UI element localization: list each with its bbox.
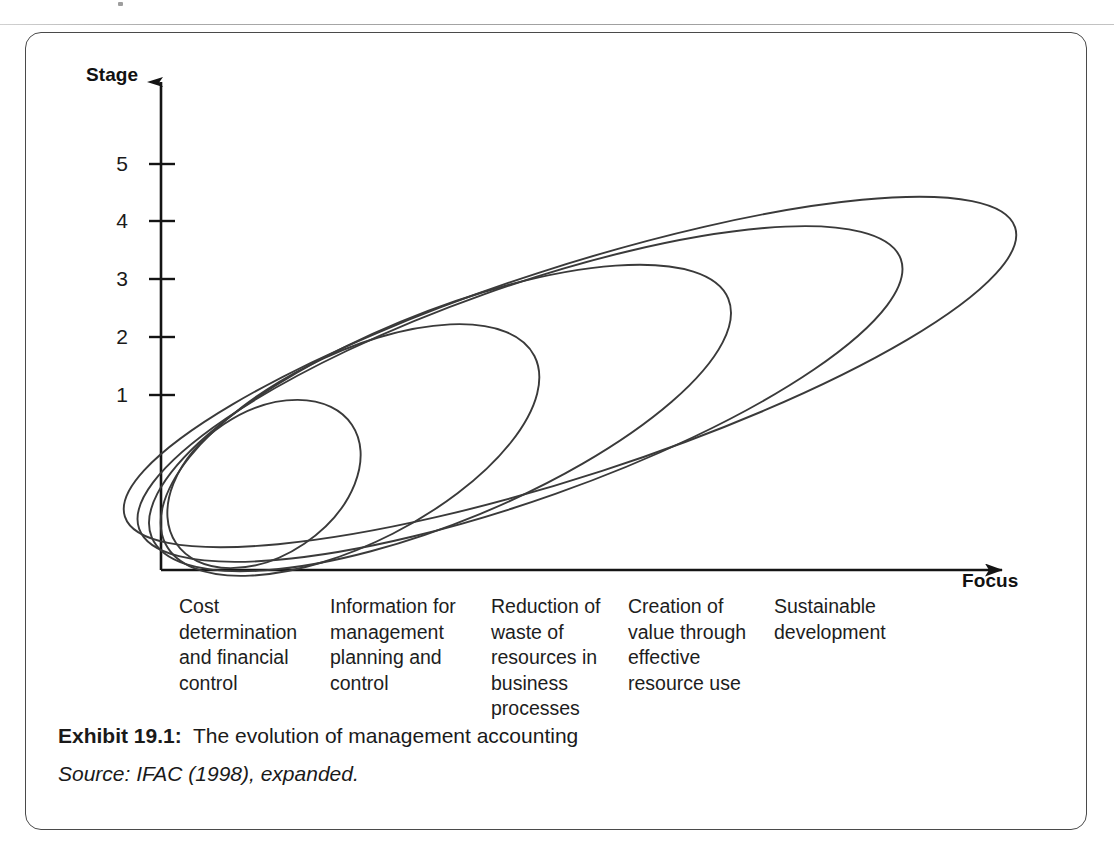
stage-ellipses	[93, 128, 1047, 633]
stage-ellipse-1	[136, 365, 392, 603]
y-axis	[149, 82, 175, 570]
y-tick-label-4: 4	[104, 209, 128, 233]
y-tick-label-5: 5	[104, 152, 128, 176]
y-axis-title: Stage	[86, 64, 138, 86]
stage-ellipse-5	[93, 128, 1047, 615]
stage-label-5: Sustainable development	[774, 594, 924, 645]
stage-label-3: Reduction of waste of resources in busin…	[491, 594, 623, 722]
stage-ellipse-4	[104, 159, 936, 629]
exhibit-caption-text: The evolution of management accounting	[193, 724, 578, 747]
exhibit-caption: Exhibit 19.1: The evolution of managemen…	[58, 724, 578, 748]
stage-label-1: Cost determination and financial control	[179, 594, 329, 696]
y-tick-label-1: 1	[104, 383, 128, 407]
figure-area: Stage Focus 5 4 3 2 1 Cost determination…	[0, 0, 1114, 858]
exhibit-caption-label: Exhibit 19.1:	[58, 724, 182, 747]
y-tick-label-3: 3	[104, 267, 128, 291]
x-axis-title: Focus	[962, 570, 1018, 592]
y-tick-label-2: 2	[104, 325, 128, 349]
stage-label-4: Creation of value through effective reso…	[628, 594, 770, 696]
stage-label-2: Information for management planning and …	[330, 594, 485, 696]
exhibit-source: Source: IFAC (1998), expanded.	[58, 762, 359, 786]
